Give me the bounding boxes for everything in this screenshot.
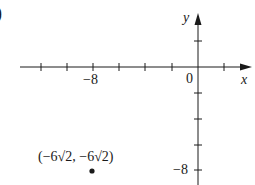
point-label: (−6√2, −6√2) xyxy=(38,150,113,164)
x-axis-arrow-icon xyxy=(240,64,252,71)
plotted-point xyxy=(89,168,94,173)
y-axis-label: y xyxy=(183,11,189,25)
x-axis-label: x xyxy=(241,73,247,87)
y-tick-label: −8 xyxy=(173,163,188,177)
origin-label: 0 xyxy=(186,72,193,86)
x-tick-label: −8 xyxy=(83,73,98,87)
part-label-fragment: ) xyxy=(0,4,2,22)
y-axis-arrow-icon xyxy=(195,13,202,25)
